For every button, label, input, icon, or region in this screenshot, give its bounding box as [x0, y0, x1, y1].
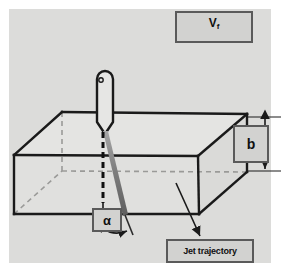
thickness-label: b — [247, 137, 256, 151]
feed-velocity-callout[interactable]: Vf — [175, 11, 253, 43]
angle-callout[interactable]: α — [92, 208, 122, 232]
jet-trajectory-label: Jet trajectory — [183, 247, 237, 256]
angle-label: α — [103, 214, 111, 227]
hidden-edge-back-bottom-right — [62, 171, 247, 172]
edge-top-front — [14, 155, 198, 156]
jet-trajectory-callout[interactable]: Jet trajectory — [166, 239, 254, 263]
jet-cutting-figure: Vf b α Jet trajectory — [0, 0, 297, 274]
thickness-callout[interactable]: b — [233, 125, 269, 163]
workpiece-front-face — [14, 155, 199, 214]
feed-velocity-label: Vf — [209, 17, 220, 29]
edge-front-right-vertical — [198, 156, 199, 214]
